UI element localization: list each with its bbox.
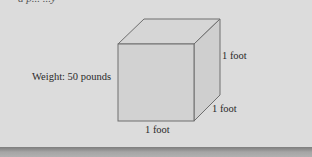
width-label: 1 foot [145,124,170,135]
depth-label: 1 foot [212,103,237,114]
bottom-divider-bar [0,147,312,157]
height-label: 1 foot [222,50,247,61]
weight-label: Weight: 50 pounds [32,71,111,82]
cube-front-face [118,44,194,121]
